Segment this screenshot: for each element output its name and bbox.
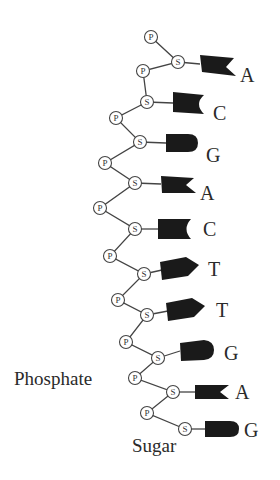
phosphate-node: P [145, 31, 158, 44]
svg-text:S: S [182, 424, 187, 434]
base-letter: G [224, 342, 238, 364]
svg-text:S: S [175, 57, 180, 67]
svg-text:P: P [148, 32, 153, 42]
base-letter: T [216, 299, 228, 321]
svg-text:P: P [97, 203, 102, 213]
svg-text:S: S [144, 310, 149, 320]
svg-text:P: P [102, 158, 107, 168]
svg-text:P: P [144, 408, 149, 418]
base-letter: A [240, 64, 255, 86]
svg-text:P: P [115, 295, 120, 305]
bases [158, 55, 239, 437]
sugar-node: S [134, 136, 147, 149]
svg-text:P: P [123, 337, 128, 347]
svg-text:S: S [141, 269, 146, 279]
phosphate-node: P [110, 112, 123, 125]
base-a-2 [161, 176, 196, 193]
base-letter: G [206, 144, 220, 166]
base-letter: T [208, 258, 220, 280]
phosphate-node: P [99, 157, 112, 170]
sugar-node: S [179, 423, 192, 436]
phosphate-label: Phosphate [14, 368, 92, 389]
base-t-2 [166, 298, 205, 321]
dna-strand-diagram: P S P S P S P S P S P S P S P S P S P S … [0, 0, 280, 480]
svg-text:S: S [137, 137, 142, 147]
base-g-2 [180, 340, 214, 361]
sugar-label: Sugar [132, 435, 177, 456]
phosphate-node: P [104, 250, 117, 263]
base-c-2 [158, 219, 191, 239]
base-g-3 [205, 421, 239, 437]
sugar-node: S [129, 223, 142, 236]
svg-text:S: S [155, 353, 160, 363]
sugar-node: S [141, 96, 154, 109]
sugar-node: S [152, 352, 165, 365]
svg-text:P: P [132, 373, 137, 383]
svg-text:P: P [140, 66, 145, 76]
base-t-1 [160, 257, 199, 280]
svg-text:P: P [107, 251, 112, 261]
base-letter: C [213, 102, 226, 124]
base-g-1 [166, 134, 198, 152]
svg-text:S: S [170, 387, 175, 397]
base-a-3 [195, 385, 229, 399]
base-letters: A C G A C T T G A G [200, 64, 258, 441]
svg-text:P: P [113, 113, 118, 123]
sugar-node: S [129, 177, 142, 190]
phosphate-node: P [137, 65, 150, 78]
base-letter: G [244, 419, 258, 441]
phosphate-node: P [129, 372, 142, 385]
phosphate-node: P [141, 407, 154, 420]
base-letter: A [235, 381, 250, 403]
phosphate-node: P [112, 294, 125, 307]
phosphate-node: P [94, 202, 107, 215]
svg-text:S: S [144, 97, 149, 107]
base-connectors [135, 62, 205, 429]
base-a-1 [200, 55, 236, 76]
svg-text:S: S [132, 178, 137, 188]
sugar-node: S [138, 268, 151, 281]
base-c-1 [173, 92, 204, 114]
sugar-node: S [141, 309, 154, 322]
base-letter: A [200, 182, 215, 204]
base-letter: C [203, 218, 216, 240]
svg-text:S: S [132, 224, 137, 234]
sugar-node: S [167, 386, 180, 399]
sugar-node: S [172, 56, 185, 69]
phosphate-node: P [120, 336, 133, 349]
